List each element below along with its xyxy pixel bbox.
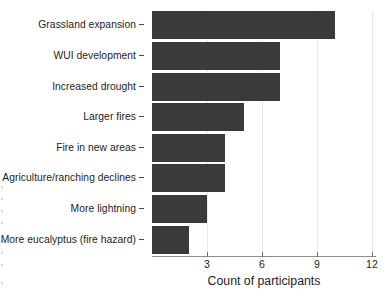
- y-axis-tick-label: WUI development: [53, 49, 144, 63]
- category-label-text: Agriculture/ranching declines: [2, 172, 136, 184]
- bar: [152, 73, 280, 101]
- y-axis-tick-label: Grassland expansion: [38, 18, 144, 32]
- bar: [152, 11, 335, 39]
- scan-artifact: [1, 282, 3, 284]
- y-axis-tick-mark: [139, 208, 144, 209]
- y-axis-tick-label: Fire in new areas: [56, 141, 144, 155]
- category-label-text: Grassland expansion: [38, 19, 136, 31]
- scan-artifact: [1, 264, 3, 266]
- y-axis-tick-mark: [139, 24, 144, 25]
- category-label-text: Fire in new areas: [56, 142, 136, 154]
- y-axis-category-labels: Grassland expansionWUI developmentIncrea…: [0, 10, 144, 255]
- category-label-text: More eucalyptus (fire hazard): [1, 234, 136, 246]
- x-axis-tick-mark: [207, 252, 208, 257]
- y-axis-tick-label: More eucalyptus (fire hazard): [1, 233, 144, 247]
- x-axis-tick-mark: [317, 252, 318, 257]
- bar: [152, 134, 225, 162]
- x-axis-tick-label: 3: [204, 258, 210, 270]
- x-axis-tick-label: 9: [314, 258, 320, 270]
- x-axis-line: [152, 256, 376, 257]
- bar: [152, 42, 280, 70]
- category-label-text: WUI development: [53, 50, 136, 62]
- y-axis-tick-label: More lightning: [71, 202, 144, 216]
- plot-area: [152, 10, 375, 255]
- y-axis-tick-mark: [139, 55, 144, 56]
- gridline: [317, 10, 318, 255]
- x-axis-title: Count of participants: [152, 274, 376, 288]
- bar-chart: Grassland expansionWUI developmentIncrea…: [0, 0, 386, 298]
- y-axis-tick-label: Agriculture/ranching declines: [2, 171, 144, 185]
- bar: [152, 195, 207, 223]
- x-axis-tick-mark: [262, 252, 263, 257]
- x-axis-tick-mark: [372, 252, 373, 257]
- y-axis-tick-mark: [139, 116, 144, 117]
- x-axis-tick-label: 12: [366, 258, 378, 270]
- y-axis-tick-mark: [139, 239, 144, 240]
- y-axis-tick-label: Larger fires: [83, 110, 144, 124]
- bar: [152, 164, 225, 192]
- x-axis-tick-label: 6: [259, 258, 265, 270]
- gridline: [372, 10, 373, 255]
- bar: [152, 103, 244, 131]
- category-label-text: Increased drought: [52, 81, 136, 93]
- bar: [152, 226, 189, 254]
- category-label-text: Larger fires: [83, 111, 136, 123]
- category-label-text: More lightning: [71, 203, 136, 215]
- y-axis-tick-label: Increased drought: [52, 80, 144, 94]
- y-axis-tick-mark: [139, 177, 144, 178]
- y-axis-tick-mark: [139, 86, 144, 87]
- y-axis-tick-mark: [139, 147, 144, 148]
